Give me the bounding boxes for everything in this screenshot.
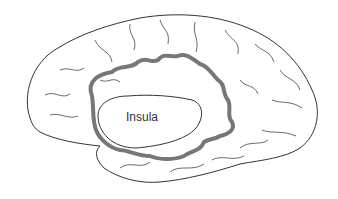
insula-label: Insula — [126, 110, 158, 124]
brain-illustration — [0, 0, 338, 199]
